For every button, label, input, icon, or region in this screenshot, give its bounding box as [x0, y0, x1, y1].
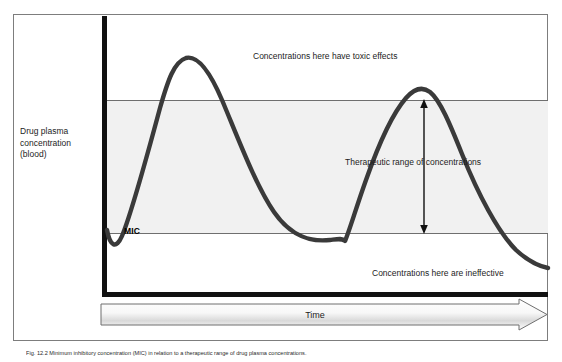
figure-root: Drug plasma concentration (blood) Concen… — [0, 0, 562, 362]
toxic-threshold-line — [106, 100, 548, 101]
toxic-region-label: Concentrations here have toxic effects — [253, 51, 397, 61]
therapeutic-range-band — [106, 100, 548, 234]
mic-label: MIC — [124, 226, 140, 236]
y-axis-label: Drug plasma concentration (blood) — [20, 126, 100, 161]
therapeutic-range-label: Therapeutic range of concentrations — [345, 157, 481, 167]
x-axis — [102, 292, 548, 297]
y-axis-label-line-2: concentration — [20, 138, 100, 150]
y-axis-label-line-3: (blood) — [20, 149, 100, 161]
mic-threshold-line — [106, 233, 548, 234]
x-axis-label: Time — [100, 303, 530, 327]
y-axis-label-line-1: Drug plasma — [20, 126, 100, 138]
y-axis — [102, 16, 107, 297]
figure-caption: Fig. 12.2 Minimum inhibitory concentrati… — [26, 350, 546, 362]
ineffective-region-label: Concentrations here are ineffective — [372, 268, 504, 278]
